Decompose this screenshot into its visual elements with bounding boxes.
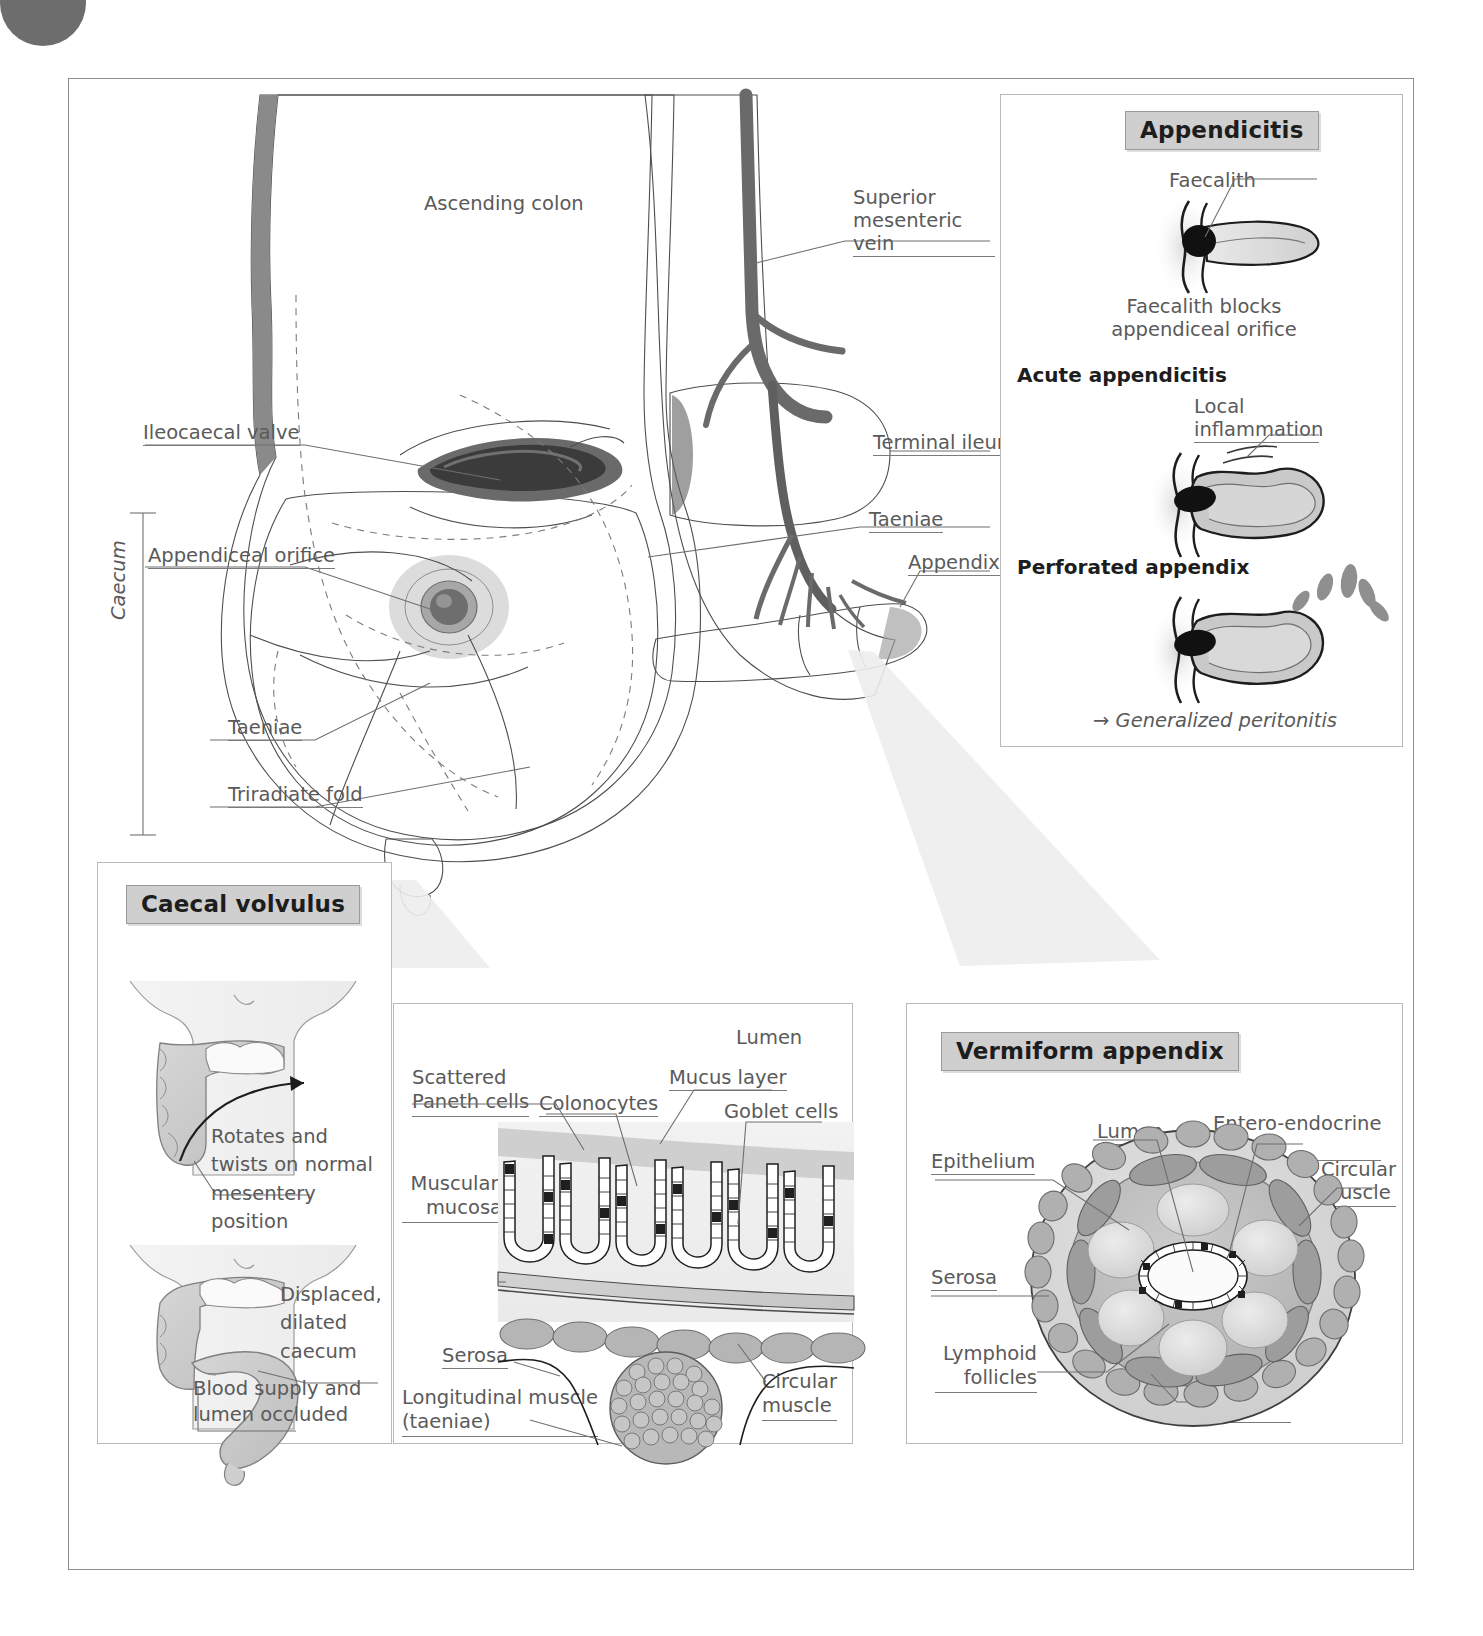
caption-displaced-dilated-caecum: Displaced, dilated caecum (280, 1281, 382, 1366)
histology-panel: Lumen Scattered Paneth cells Colonocytes… (393, 1003, 853, 1444)
label-superior-mesenteric-vein: Superior mesenteric vein (853, 186, 995, 257)
label-ileocaecal-valve: Ileocaecal valve (143, 421, 300, 446)
page-corner-marker (0, 0, 86, 46)
label-appendix: Appendix (908, 551, 1000, 576)
caecal-volvulus-panel: Caecal volvulus Rotates and twists on no… (97, 862, 392, 1444)
label-taeniae-right: Taeniae (869, 508, 943, 533)
appendix-cross-section (907, 1004, 1404, 1445)
appendicitis-panel: Appendicitis Faecalith Faecalith blocks … (1000, 94, 1403, 747)
label-appendiceal-orifice: Appendiceal orifice (148, 544, 335, 569)
label-ascending-colon: Ascending colon (424, 192, 584, 215)
label-taeniae-left: Taeniae (228, 716, 302, 741)
colon-histology-diagram (394, 1004, 854, 1445)
caption-blood-supply-occluded: Blood supply and lumen occluded (193, 1376, 361, 1429)
label-triradiate-fold: Triradiate fold (228, 783, 363, 808)
vermiform-appendix-panel: Vermiform appendix Lumen Entero-endocrin… (906, 1003, 1403, 1444)
label-terminal-ileum: Terminal ileum (873, 431, 1016, 456)
label-caecum: Caecum (107, 540, 130, 620)
caption-generalized-peritonitis: → Generalized peritonitis (1093, 709, 1337, 732)
perforated-appendix-diagram (1001, 95, 1404, 748)
